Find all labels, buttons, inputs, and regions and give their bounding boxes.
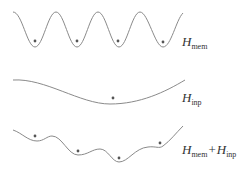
label-h-mem-plus-h-inp: Hmem+Hinp [182,142,236,159]
minimum-dot [34,40,37,43]
label-h-inp: Hinp [182,90,202,107]
minimum-dot [162,41,165,44]
minimum-dot [112,97,115,100]
combined-energy-curve [13,126,183,162]
label-h-mem: Hmem [182,34,207,51]
minimum-dot [34,135,37,138]
input-energy-curve [13,80,185,104]
minimum-dot [77,150,80,153]
minimum-dot [159,142,162,145]
minima-markers [34,40,165,160]
minimum-dot [117,40,120,43]
minimum-dot [118,157,121,160]
memory-energy-curve [13,12,183,47]
minimum-dot [76,40,79,43]
